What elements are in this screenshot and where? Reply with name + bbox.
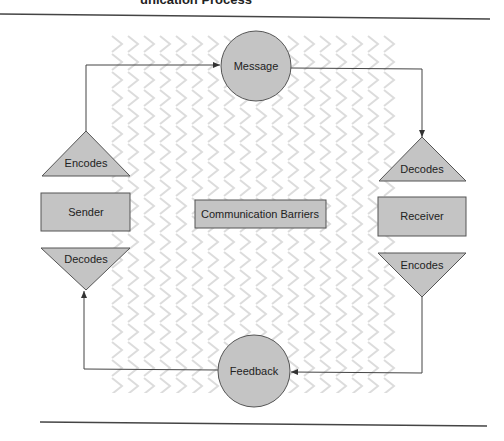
feedback-node: Feedback — [218, 335, 290, 407]
receiver-node: Receiver — [378, 197, 466, 236]
message-node: Message — [221, 31, 291, 101]
message-label: Message — [234, 60, 279, 72]
top-rule — [0, 14, 490, 19]
communication-barriers-label: Communication Barriers — [201, 208, 319, 220]
feedback-label: Feedback — [230, 365, 279, 377]
receiver-decodes-label: Decodes — [400, 163, 444, 175]
sender-node: Sender — [41, 193, 130, 231]
sender-decodes-label: Decodes — [64, 253, 108, 265]
communication-barriers-box: Communication Barriers — [195, 200, 326, 228]
sender-encodes-label: Encodes — [65, 157, 108, 169]
sender-label: Sender — [68, 206, 104, 218]
bottom-rule — [40, 422, 487, 426]
receiver-label: Receiver — [400, 210, 444, 222]
communication-process-diagram: Message Feedback Encodes Sender Decodes … — [0, 0, 504, 441]
receiver-encodes-label: Encodes — [401, 259, 444, 271]
